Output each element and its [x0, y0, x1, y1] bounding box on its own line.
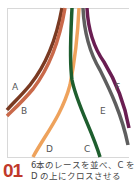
lace-f [87, 8, 129, 128]
lace-a [7, 8, 62, 110]
lace-label-e: E [100, 107, 106, 116]
lace-label-b: B [21, 107, 27, 116]
lace-label-a: A [12, 83, 18, 92]
step-number: 01 [3, 161, 22, 180]
lace-label-f: F [115, 83, 120, 92]
lace-label-c: C [84, 145, 90, 154]
step-instruction: 6本のレースを並べ、C を D の上にクロスさせる [31, 160, 137, 182]
lace-label-d: D [46, 145, 53, 154]
